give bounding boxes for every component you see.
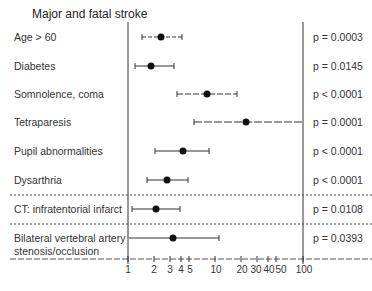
estimate-dot-age — [158, 34, 165, 41]
estimate-dot-somnolence — [204, 91, 211, 98]
tick-label-1: 1 — [125, 264, 131, 275]
estimate-dot-diabetes — [148, 63, 155, 70]
tick-label-50: 50 — [275, 264, 286, 275]
tick-label-40: 40 — [263, 264, 274, 275]
estimate-dot-ct — [153, 206, 160, 213]
forest-plot — [0, 0, 372, 291]
tick-label-5: 5 — [187, 264, 193, 275]
tick-label-100: 100 — [296, 264, 313, 275]
tick-label-20: 20 — [236, 264, 247, 275]
tick-label-4: 4 — [178, 264, 184, 275]
tick-label-30: 30 — [250, 264, 261, 275]
tick-label-2: 2 — [151, 264, 157, 275]
estimate-dot-bilateral — [170, 235, 177, 242]
estimate-dot-pupil — [180, 148, 187, 155]
tick-label-3: 3 — [167, 264, 173, 275]
tick-label-10: 10 — [210, 264, 221, 275]
estimate-dot-dysarthria — [164, 177, 171, 184]
estimate-dot-tetraparesis — [243, 119, 250, 126]
